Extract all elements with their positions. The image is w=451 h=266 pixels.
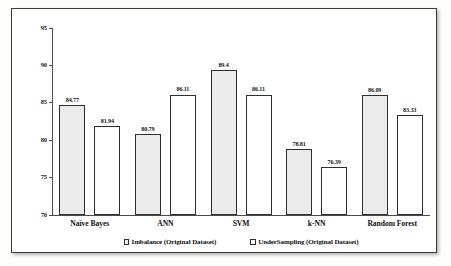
legend-swatch-icon xyxy=(124,239,130,245)
chart-page-frame: 707580859095 84.7781.9480.7986.1189.486.… xyxy=(11,8,437,253)
legend-label: UnderSampling (Original Dataset) xyxy=(258,238,358,246)
bar-undersampling xyxy=(397,115,423,215)
legend-label: Imbalance (Original Dataset) xyxy=(132,238,217,246)
legend-swatch-icon xyxy=(250,239,256,245)
chart-legend: Imbalance (Original Dataset)UnderSamplin… xyxy=(52,238,430,246)
bar-imbalance xyxy=(362,95,388,215)
legend-entry: Imbalance (Original Dataset) xyxy=(124,238,217,246)
category-label: Random Forest xyxy=(337,219,447,228)
legend-entry: UnderSampling (Original Dataset) xyxy=(250,238,358,246)
bar-chart-figure: 707580859095 84.7781.9480.7986.1189.486.… xyxy=(0,0,451,266)
y-axis-tick: 70 xyxy=(12,215,52,216)
bar-group xyxy=(12,28,430,215)
